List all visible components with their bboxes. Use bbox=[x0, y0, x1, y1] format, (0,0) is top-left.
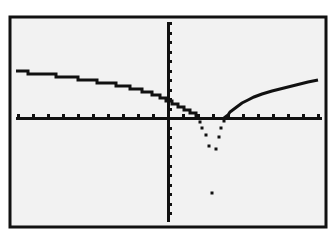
x-tick bbox=[32, 114, 35, 118]
x-tick bbox=[302, 114, 305, 118]
x-tick bbox=[257, 114, 260, 118]
y-tick bbox=[168, 117, 172, 120]
x-tick bbox=[107, 114, 110, 118]
y-tick bbox=[168, 79, 172, 82]
plot-dot bbox=[220, 127, 223, 130]
x-tick bbox=[212, 114, 215, 118]
plot-dot bbox=[211, 192, 214, 195]
plot-dot bbox=[208, 145, 211, 148]
y-tick bbox=[168, 22, 172, 25]
y-tick bbox=[168, 60, 172, 63]
y-tick bbox=[168, 155, 172, 158]
plot-dot bbox=[205, 134, 208, 137]
graph-screen bbox=[0, 0, 330, 235]
y-tick bbox=[168, 174, 172, 177]
y-tick bbox=[168, 165, 172, 168]
x-tick bbox=[62, 114, 65, 118]
plot-dot bbox=[218, 136, 221, 139]
x-tick bbox=[47, 114, 50, 118]
x-tick bbox=[182, 114, 185, 118]
y-tick bbox=[168, 203, 172, 206]
y-tick bbox=[168, 127, 172, 130]
y-tick bbox=[168, 212, 172, 215]
y-tick bbox=[168, 146, 172, 149]
x-tick bbox=[77, 114, 80, 118]
x-tick bbox=[272, 114, 275, 118]
y-tick bbox=[168, 32, 172, 35]
x-tick bbox=[287, 114, 290, 118]
plot-dot bbox=[223, 120, 226, 123]
y-tick bbox=[168, 193, 172, 196]
x-tick bbox=[92, 114, 95, 118]
y-tick bbox=[168, 51, 172, 54]
x-tick bbox=[242, 114, 245, 118]
y-tick bbox=[168, 89, 172, 92]
plot-dot bbox=[199, 121, 202, 124]
y-tick bbox=[168, 41, 172, 44]
x-tick bbox=[122, 114, 125, 118]
x-tick bbox=[17, 114, 20, 118]
y-tick bbox=[168, 108, 172, 111]
y-tick bbox=[168, 136, 172, 139]
x-tick bbox=[317, 114, 320, 118]
y-tick bbox=[168, 70, 172, 73]
x-tick bbox=[152, 114, 155, 118]
x-tick bbox=[137, 114, 140, 118]
plot-dot bbox=[201, 127, 204, 130]
y-tick bbox=[168, 184, 172, 187]
plot-dot bbox=[215, 148, 218, 151]
